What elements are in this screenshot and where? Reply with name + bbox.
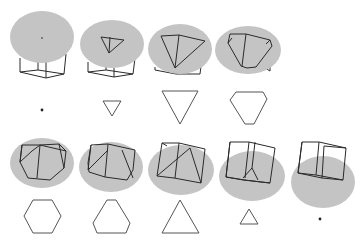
panel-2	[80, 20, 144, 116]
section-small-triangle	[240, 209, 258, 224]
panel-1	[10, 11, 74, 111]
section-truncated-triangle	[93, 200, 130, 233]
panel-6	[79, 142, 143, 233]
panel-9	[291, 142, 355, 220]
section-regular-hexagon	[24, 200, 61, 233]
cube-cross-section-diagram	[0, 0, 362, 243]
cutting-plane	[148, 24, 212, 74]
section-truncated-triangle	[230, 92, 267, 124]
cutting-plane	[80, 20, 144, 68]
panel-4	[215, 26, 281, 124]
panel-5	[10, 138, 74, 233]
section-point	[41, 37, 43, 39]
cutting-plane	[10, 11, 74, 63]
cutting-plane	[215, 26, 281, 74]
panel-3	[148, 24, 212, 124]
panel-7	[148, 143, 214, 233]
section-point-below	[41, 109, 44, 112]
panel-8	[219, 142, 285, 224]
section-large-triangle	[162, 91, 198, 124]
section-small-triangle	[103, 101, 121, 116]
section-point	[319, 218, 322, 221]
section-large-triangle	[162, 200, 199, 233]
cutting-plane	[219, 151, 285, 201]
